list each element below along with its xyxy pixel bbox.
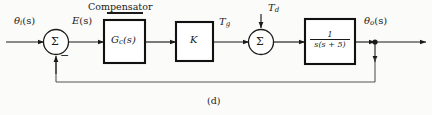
compensator-label-arg: (s) bbox=[123, 34, 136, 45]
compensator-block-label: Gc(s) bbox=[111, 35, 136, 46]
compensator-section-title: Compensator bbox=[88, 2, 152, 12]
output-signal-label: θo(s) bbox=[364, 16, 387, 27]
torque-generated-base: T bbox=[219, 16, 226, 27]
output-node-dot bbox=[372, 39, 377, 44]
input-signal-arg: (s) bbox=[22, 15, 35, 26]
figure-caption: (d) bbox=[207, 96, 221, 106]
disturbance-summer-sigma-glyph: Σ bbox=[256, 36, 264, 47]
input-summer-sigma-glyph: Σ bbox=[51, 36, 59, 47]
disturbance-base: T bbox=[268, 2, 275, 13]
compensator-label-base: G bbox=[111, 34, 119, 45]
disturbance-signal-label: Td bbox=[268, 3, 279, 14]
input-signal-label: θi(s) bbox=[14, 16, 35, 27]
gain-label-base: K bbox=[190, 34, 197, 45]
output-signal-arg: (s) bbox=[374, 15, 387, 26]
error-signal-label: E(s) bbox=[72, 16, 92, 26]
plant-transfer-function: 1 s(s + 5) bbox=[310, 31, 350, 50]
forward-path-wires bbox=[6, 14, 426, 42]
torque-generated-label: Tg bbox=[219, 17, 230, 28]
block-diagram-figure: Compensator θi(s) E(s) Gc(s) K Tg Td Σ Σ… bbox=[0, 0, 432, 115]
error-signal-arg: (s) bbox=[79, 15, 92, 26]
plant-denominator: s(s + 5) bbox=[310, 40, 350, 49]
plant-numerator: 1 bbox=[310, 31, 350, 40]
gain-block-label: K bbox=[190, 35, 197, 45]
disturbance-subscript: d bbox=[275, 6, 279, 14]
feedback-minus-sign: − bbox=[60, 50, 69, 61]
torque-generated-subscript: g bbox=[226, 20, 230, 28]
junction-dots bbox=[372, 39, 377, 44]
